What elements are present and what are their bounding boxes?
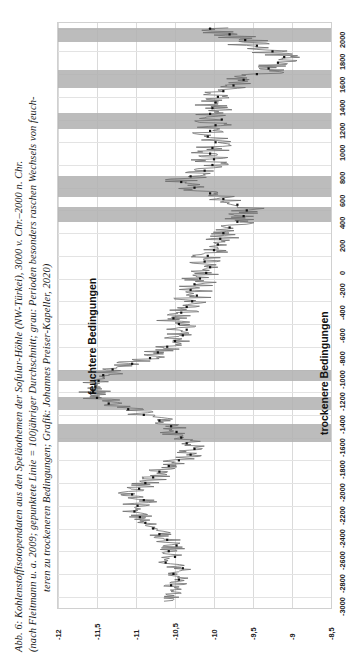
time-tick-label: -400	[338, 306, 347, 321]
time-tick-label: -2800	[338, 574, 347, 593]
mean-dot	[211, 147, 213, 149]
mean-dot	[209, 192, 211, 194]
mean-dot	[221, 118, 223, 120]
mean-dot	[166, 539, 168, 541]
mean-dot	[209, 130, 211, 132]
mean-dot	[131, 363, 133, 365]
value-tick-label: -9,5	[249, 627, 258, 640]
mean-dot	[136, 505, 138, 507]
mean-dot	[229, 226, 231, 228]
mean-dot	[190, 289, 192, 291]
mean-dot	[180, 437, 182, 439]
mean-dot	[170, 584, 172, 586]
mean-dot	[268, 67, 270, 69]
mean-dot	[214, 141, 216, 143]
mean-dot	[193, 448, 195, 450]
mean-dot	[193, 187, 195, 189]
mean-dot	[157, 351, 159, 353]
time-tick-label: -2600	[338, 551, 347, 570]
mean-dot	[209, 266, 211, 268]
mean-dot	[213, 249, 215, 251]
mean-dot	[172, 317, 174, 319]
mean-dot	[222, 232, 224, 234]
mean-dot	[152, 527, 154, 529]
mean-dot	[143, 499, 145, 501]
value-tick-label: -9	[288, 633, 297, 640]
mean-dot	[219, 238, 221, 240]
mean-dot	[222, 90, 224, 92]
mean-dot	[222, 198, 224, 200]
time-tick-label: 1600	[338, 77, 347, 93]
mean-dot	[180, 181, 182, 183]
mean-dot	[244, 39, 246, 41]
time-tick-label: -2200	[338, 506, 347, 525]
chart-figure: feuchtere Bedingungen trockenere Bedingu…	[46, 0, 362, 665]
mean-dot	[277, 62, 279, 64]
mean-dot	[207, 135, 209, 137]
mean-dot	[211, 107, 213, 109]
mean-dot	[96, 397, 98, 399]
mean-dot	[204, 260, 206, 262]
mean-dot	[166, 346, 168, 348]
time-tick-label: -2000	[338, 483, 347, 502]
mean-dot	[214, 124, 216, 126]
mean-dot	[108, 402, 110, 404]
time-tick-label: -600	[338, 328, 347, 343]
mean-dot	[144, 482, 146, 484]
mean-dot	[283, 56, 285, 58]
mean-dot	[174, 556, 176, 558]
mean-dot	[229, 33, 231, 35]
mean-dot	[131, 493, 133, 495]
mean-dot	[182, 334, 184, 336]
mean-dot	[232, 84, 234, 86]
mean-dot	[236, 221, 238, 223]
mean-dot	[112, 368, 114, 370]
data-curves	[58, 23, 331, 608]
value-gridline	[331, 23, 332, 608]
mean-dot	[172, 573, 174, 575]
mean-dot	[256, 73, 258, 75]
mean-dot	[178, 579, 180, 581]
value-tick-label: -8,5	[327, 627, 336, 640]
mean-dot	[180, 312, 182, 314]
time-tick-label: 1400	[338, 99, 347, 115]
mean-dot	[133, 510, 135, 512]
mean-dot	[209, 113, 211, 115]
mean-dot	[193, 283, 195, 285]
mean-dot	[190, 454, 192, 456]
value-tick-label: -12	[54, 629, 63, 640]
mean-dot	[168, 465, 170, 467]
mean-dot	[138, 488, 140, 490]
mean-dot	[102, 374, 104, 376]
time-tick-label: -1600	[338, 438, 347, 457]
time-tick-label: 0	[338, 271, 347, 275]
mean-dot	[243, 215, 245, 217]
time-tick-label: -200	[338, 283, 347, 298]
mean-dot	[144, 522, 146, 524]
time-tick-label: 1200	[338, 122, 347, 138]
mean-dot	[175, 544, 177, 546]
time-tick-label: -1800	[338, 460, 347, 479]
mean-dot	[209, 28, 211, 30]
figure-caption: Abb. 6: Kohlenstoffisotopendaten aus den…	[0, 0, 46, 665]
mean-dot	[186, 306, 188, 308]
time-tick-label: 600	[338, 194, 347, 206]
mean-dot	[158, 419, 160, 421]
mean-dot	[217, 96, 219, 98]
mean-dot	[158, 471, 160, 473]
time-tick-label: 800	[338, 172, 347, 184]
mean-dot	[199, 277, 201, 279]
label-drier-conditions: trockenere Bedingungen	[318, 311, 330, 435]
value-tick-label: -10	[210, 629, 219, 640]
mean-dot	[211, 164, 213, 166]
caption-line-2: (nach Fleitmann u. a. 2009; gepunktete L…	[27, 97, 38, 652]
mean-dot	[165, 561, 167, 563]
time-tick-label: -1400	[338, 415, 347, 434]
label-wetter-conditions: feuchtere Bedingungen	[86, 278, 98, 395]
mean-dot	[186, 442, 188, 444]
mean-dot	[217, 243, 219, 245]
raw-data-line	[79, 28, 300, 601]
mean-dot	[256, 45, 258, 47]
mean-dot	[196, 295, 198, 297]
mean-dot	[205, 272, 207, 274]
